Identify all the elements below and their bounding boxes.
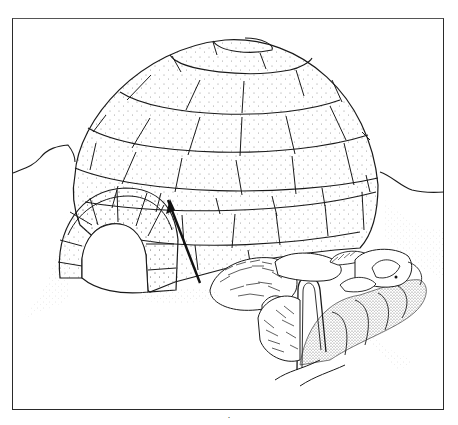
igloo-illustration (0, 0, 458, 425)
caption: · (0, 412, 458, 422)
